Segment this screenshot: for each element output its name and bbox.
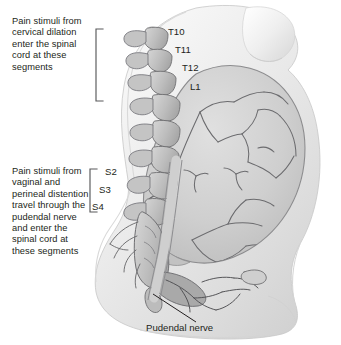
segment-label-s4: S4 — [92, 202, 104, 212]
cervical-segment-bracket — [96, 29, 103, 101]
figure-canvas: Pain stimuli from cervical dilation ente… — [0, 0, 341, 345]
segment-label-l1: L1 — [190, 82, 201, 92]
segment-label-s3: S3 — [99, 185, 111, 195]
annotation-pudendal-nerve: Pudendal nerve — [146, 322, 213, 333]
callout-cervical-dilation: Pain stimuli from cervical dilation ente… — [12, 16, 96, 73]
callout-pudendal-distention: Pain stimuli from vaginal and perineal d… — [12, 166, 92, 257]
segment-label-s2: S2 — [105, 167, 117, 177]
segment-label-t10: T10 — [168, 27, 185, 37]
segment-label-t12: T12 — [182, 63, 199, 73]
segment-label-t11: T11 — [175, 45, 191, 55]
